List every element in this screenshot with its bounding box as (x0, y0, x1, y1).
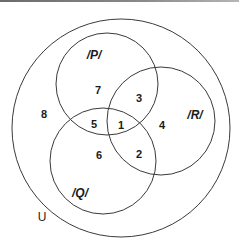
region-8-label: 8 (41, 108, 47, 120)
venn-diagram: /P/ /Q/ /R/ U 1 2 3 4 5 6 7 8 (0, 0, 239, 249)
universe-label: U (38, 210, 47, 224)
region-6-label: 6 (96, 149, 102, 161)
region-7-label: 7 (95, 84, 101, 96)
set-q-label: /Q/ (71, 186, 90, 200)
set-r-label: /R/ (186, 108, 204, 122)
region-2-label: 2 (136, 148, 142, 160)
region-1-label: 1 (118, 119, 124, 131)
region-4-label: 4 (159, 119, 166, 131)
venn-diagram-canvas: /P/ /Q/ /R/ U 1 2 3 4 5 6 7 8 (0, 0, 239, 249)
region-5-label: 5 (91, 118, 97, 130)
region-3-label: 3 (136, 92, 142, 104)
set-p-label: /P/ (86, 48, 103, 62)
set-q-circle (50, 108, 156, 214)
